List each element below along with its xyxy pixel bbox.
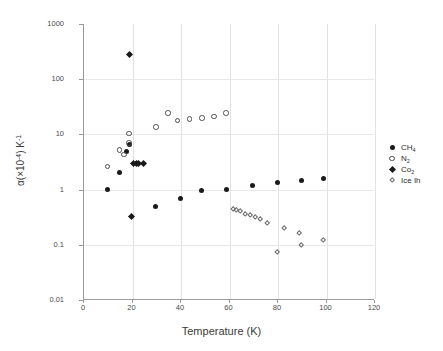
chart-legend: CH4N2Co2Ice Ih [392,142,442,186]
data-point-ch4 [299,178,304,183]
plot-area [83,24,374,300]
y-tick-mark [79,24,83,25]
y-tick-mark [79,300,83,301]
x-tick-label: 40 [165,303,195,312]
scatter-chart-figure: 0204060801001200.010.11101001000 Tempera… [0,0,443,351]
legend-marker-icon [389,177,395,183]
y-tick-label: 0.1 [54,241,64,249]
y-tick-label: 1 [60,186,64,194]
gridline-vertical [230,24,231,299]
y-tick-label: 100 [51,75,64,83]
legend-item-n2[interactable]: N2 [392,153,442,164]
legend-item-ice-ih[interactable]: Ice Ih [392,175,442,186]
y-tick-mark [79,245,83,246]
y-tick-mark [79,190,83,191]
x-tick-label: 20 [117,303,147,312]
data-point-n2 [211,114,217,120]
data-point-n2 [126,140,132,146]
data-point-ch4 [321,176,326,181]
y-axis-title: α(×10-4) K-1 [15,71,26,251]
x-tick-label: 0 [68,303,98,312]
gridline-vertical [181,24,182,299]
data-point-n2 [165,110,171,116]
y-tick-label: 0.01 [49,296,64,304]
x-tick-label: 80 [262,303,292,312]
y-tick-mark [79,79,83,80]
legend-marker-icon [390,145,395,150]
legend-marker-icon [389,156,395,162]
data-point-ch4 [275,180,280,185]
x-tick-label: 120 [359,303,389,312]
gridline-vertical [278,24,279,299]
gridline-vertical [327,24,328,299]
legend-item-co2[interactable]: Co2 [392,164,442,175]
gridline-horizontal [84,245,374,246]
x-tick-label: 100 [311,303,341,312]
x-axis-title: Temperature (K) [0,325,443,337]
data-point-ch4 [105,187,110,192]
data-point-ch4 [153,204,158,209]
y-tick-label: 10 [56,130,64,138]
y-tick-label: 1000 [47,20,64,28]
data-point-n2 [153,124,159,130]
data-point-ch4 [224,187,229,192]
gridline-vertical [375,24,376,299]
legend-item-label: Ice Ih [401,175,421,186]
gridline-horizontal [84,79,374,80]
y-tick-mark [79,134,83,135]
legend-marker-icon [388,166,395,173]
legend-item-ch4[interactable]: CH4 [392,142,442,153]
data-point-ch4 [178,196,183,201]
x-tick-label: 60 [214,303,244,312]
data-point-n2 [199,115,205,121]
data-point-n2 [223,110,229,116]
gridline-horizontal [84,190,374,191]
